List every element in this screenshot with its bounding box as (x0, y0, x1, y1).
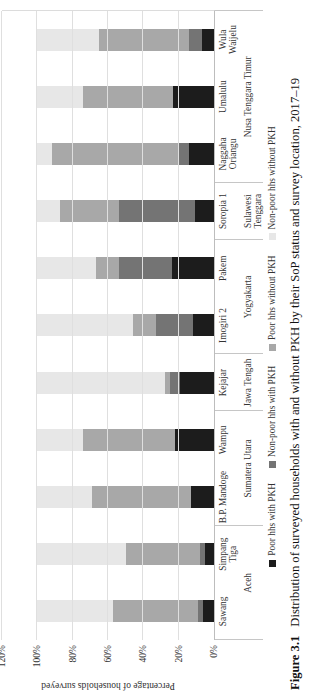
bar-column (2, 240, 214, 297)
bar-segment (37, 600, 113, 622)
bar-segment (195, 200, 214, 222)
category-label: Kejajar (218, 354, 239, 411)
bar-segment (37, 429, 83, 451)
bars-container (2, 11, 214, 640)
plot-area (2, 10, 215, 640)
legend-swatch-icon (269, 461, 276, 468)
province-label: Nusa Tenggara Timur (243, 11, 264, 183)
bar-segment (179, 143, 190, 165)
bar-segment (37, 29, 99, 51)
y-axis-tick-label: 100% (32, 645, 42, 667)
bar-segment (189, 29, 201, 51)
gridline (107, 11, 108, 640)
category-label: B.P. Mandoge (218, 468, 239, 525)
bar-segment (191, 486, 214, 508)
category-label: SimpangTiga (218, 526, 239, 583)
bar-segment (119, 200, 195, 222)
category-label: WulaWaijelu (218, 11, 239, 68)
legend-label: Non-poor hhs without PKH (267, 126, 277, 229)
bar-column (2, 411, 214, 468)
bar-segment (193, 314, 214, 336)
legend-swatch-icon (269, 233, 276, 240)
gridline (36, 11, 37, 640)
gridline (178, 11, 179, 640)
stacked-bar (37, 486, 214, 508)
bar-segment (170, 372, 181, 394)
province-label: Yogyakarta (243, 240, 264, 354)
y-axis-tick-label: 40% (138, 645, 148, 662)
category-label: Sawang (218, 583, 239, 640)
bar-segment (37, 372, 164, 394)
legend-label: Non-poor hhs with PKH (267, 366, 277, 457)
legend-item: Poor hhs without PKH (267, 255, 277, 350)
bar-segment (180, 372, 214, 394)
stacked-bar (37, 600, 214, 622)
category-label: Imogiri 2 (218, 297, 239, 354)
gridline (142, 11, 143, 640)
bar-segment (37, 86, 83, 108)
bar-segment (205, 543, 214, 565)
bar-column (2, 526, 214, 583)
bar-segment (83, 429, 175, 451)
y-axis-tick-label: 20% (174, 645, 184, 662)
group-separator (215, 640, 263, 641)
stacked-bar (37, 314, 214, 336)
y-axis-title: Percentage of households surveyed (2, 678, 214, 691)
province-labels-row: AcehSumatera UtaraJawa TengahYogyakartaS… (243, 11, 264, 640)
group-separator (215, 354, 263, 355)
bar-column (2, 354, 214, 411)
bar-segment (202, 29, 214, 51)
legend-item: Poor hhs with PKH (267, 483, 277, 567)
gridline (72, 11, 73, 640)
y-axis-tick-label: 80% (68, 645, 78, 662)
legend-item: Non-poor hhs with PKH (267, 366, 277, 468)
category-label: Umalulu (218, 68, 239, 125)
bar-segment (156, 314, 193, 336)
legend-label: Poor hhs with PKH (267, 483, 277, 556)
stacked-bar (37, 29, 214, 51)
legend-swatch-icon (269, 344, 276, 351)
province-label: Sumatera Utara (243, 411, 264, 525)
figure-caption: Figure 3.1Distribution of surveyed house… (288, 78, 303, 690)
category-label: NaggahaOriangu (218, 125, 239, 182)
bar-segment (83, 86, 173, 108)
bar-column (2, 183, 214, 240)
province-label: SulawesiTenggara (243, 183, 264, 240)
legend-item: Non-poor hhs without PKH (267, 126, 277, 240)
stacked-bar (37, 257, 214, 279)
stacked-bar (37, 200, 214, 222)
stacked-bar (37, 543, 214, 565)
bar-segment (60, 200, 118, 222)
bar-segment (37, 200, 60, 222)
bar-column (2, 468, 214, 525)
bar-segment (37, 314, 132, 336)
y-axis-tick-label: 0% (209, 645, 219, 658)
group-separator (215, 526, 263, 527)
category-axis: SawangSimpangTigaB.P. MandogeWampuKejaja… (215, 11, 267, 640)
stacked-bar (37, 372, 214, 394)
stacked-bar (37, 143, 214, 165)
stacked-bar (37, 429, 214, 451)
bar-segment (113, 600, 198, 622)
bar-segment (37, 257, 95, 279)
bar-segment (37, 543, 125, 565)
bar-column (2, 11, 214, 68)
y-axis: 0%20%40%60%80%100%120% (2, 643, 214, 679)
group-separator (215, 183, 263, 184)
bar-segment (99, 29, 189, 51)
bar-column (2, 125, 214, 182)
bar-column (2, 583, 214, 640)
bar-segment (203, 600, 214, 622)
bar-segment (175, 429, 214, 451)
category-label: Soropia 1 (218, 183, 239, 240)
y-axis-tick-label: 60% (103, 645, 113, 662)
figure-rotated-canvas: Percentage of households surveyed 0%20%4… (0, 0, 316, 693)
bar-segment (52, 143, 179, 165)
group-separator (215, 240, 263, 241)
bar-segment (37, 486, 92, 508)
category-label: Pakem (218, 240, 239, 297)
legend: Poor hhs with PKHNon-poor hhs with PKHPo… (267, 0, 277, 693)
legend-label: Poor hhs without PKH (267, 255, 277, 339)
bar-segment (133, 314, 156, 336)
legend-swatch-icon (269, 560, 276, 567)
